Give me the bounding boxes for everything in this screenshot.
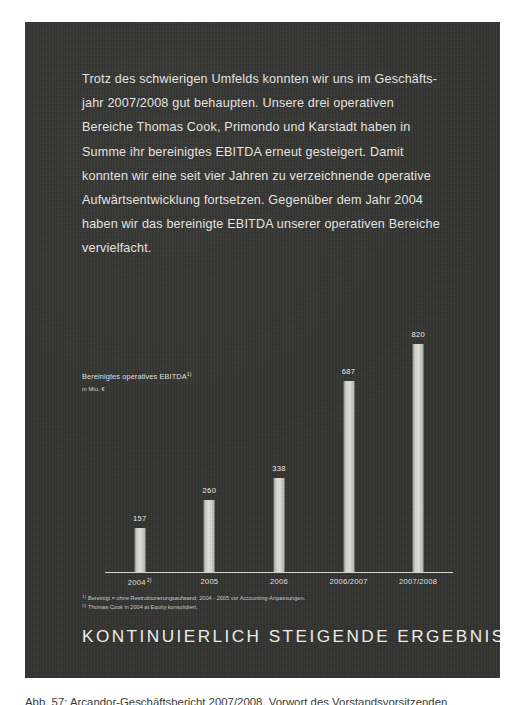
bar-value-label: 820 bbox=[411, 330, 425, 339]
footnote: 1)Bereinigt = ohne Restrukturierungsaufw… bbox=[82, 593, 305, 602]
bar bbox=[273, 478, 284, 572]
bar-category-label: 2005 bbox=[175, 577, 245, 586]
ebitda-bar-chart: Bereinigtes operatives EBITDA1) in Mio. … bbox=[25, 22, 500, 678]
footnote-marker: 2) bbox=[82, 603, 86, 608]
bar-value-label: 260 bbox=[203, 486, 217, 495]
footnote-text: Thomas Cook in 2004 at Equity konsolidie… bbox=[88, 604, 198, 610]
bar-group: 687 bbox=[314, 322, 384, 572]
category-superscript: 2) bbox=[147, 577, 152, 583]
bar-group: 820 bbox=[383, 322, 453, 572]
bar bbox=[343, 381, 354, 572]
bar-category-label: 2006/2007 bbox=[314, 577, 384, 586]
footnote-text: Bereinigt = ohne Restrukturierungsaufwan… bbox=[88, 595, 305, 601]
footnote: 2)Thomas Cook in 2004 at Equity konsolid… bbox=[82, 602, 305, 611]
footnotes: 1)Bereinigt = ohne Restrukturierungsaufw… bbox=[82, 593, 305, 612]
bar-value-label: 157 bbox=[133, 514, 147, 523]
figure-caption: Abb. 57: Arcandor-Geschäftsbericht 2007/… bbox=[25, 696, 495, 705]
footnote-marker: 1) bbox=[82, 594, 86, 599]
chart-plot-area: 157260338687820 bbox=[105, 322, 453, 572]
bar-value-label: 687 bbox=[342, 367, 356, 376]
bar-value-label: 338 bbox=[272, 464, 286, 473]
bar-group: 338 bbox=[244, 322, 314, 572]
bar-category-label: 20042) bbox=[105, 577, 175, 587]
bar-category-label: 2007/2008 bbox=[383, 577, 453, 586]
report-panel: Trotz des schwierigen Umfelds konnten wi… bbox=[25, 22, 500, 678]
bar bbox=[413, 344, 424, 572]
bar bbox=[204, 500, 215, 572]
chart-baseline-axis bbox=[105, 572, 453, 573]
bar-category-label: 2006 bbox=[244, 577, 314, 586]
bar bbox=[134, 528, 145, 572]
bar-group: 260 bbox=[175, 322, 245, 572]
page-headline: KONTINUIERLICH STEIGENDE ERGEBNISSE bbox=[82, 626, 500, 647]
bar-group: 157 bbox=[105, 322, 175, 572]
